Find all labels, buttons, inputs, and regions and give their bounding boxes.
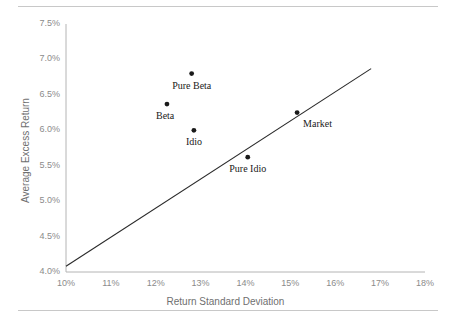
data-point-marker[interactable] (245, 155, 250, 160)
data-point-label: Beta (156, 110, 174, 121)
data-point-label: Idio (186, 136, 202, 147)
data-point-label: Pure Idio (229, 163, 266, 174)
data-point-marker[interactable] (295, 110, 300, 115)
x-tick-label: 11% (91, 278, 131, 288)
x-tick-label: 15% (270, 278, 310, 288)
x-axis-title: Return Standard Deviation (0, 296, 451, 307)
x-tick-label: 18% (405, 278, 445, 288)
data-point-label: Pure Beta (172, 80, 211, 91)
axes (66, 24, 425, 272)
y-tick-label: 6.5% (26, 89, 60, 99)
x-tick-label: 16% (315, 278, 355, 288)
y-tick-label: 4.5% (26, 231, 60, 241)
y-tick-label: 5.5% (26, 160, 60, 170)
y-tick-label: 5.0% (26, 195, 60, 205)
scatter-plot (0, 0, 451, 320)
data-point-marker[interactable] (191, 128, 196, 133)
x-tick-label: 12% (136, 278, 176, 288)
data-point-label: Market (303, 118, 332, 129)
figure-container: 4.0%4.5%5.0%5.5%6.0%6.5%7.0%7.5% 10%11%1… (0, 0, 451, 320)
trend-line-group (66, 69, 371, 267)
y-tick-label: 6.0% (26, 124, 60, 134)
y-tick-label: 7.5% (26, 18, 60, 28)
y-tick-label: 7.0% (26, 53, 60, 63)
data-point-marker[interactable] (189, 71, 194, 76)
y-tick-label: 4.0% (26, 266, 60, 276)
x-tick-label: 17% (360, 278, 400, 288)
data-point-marker[interactable] (165, 102, 170, 107)
trend-line (66, 69, 371, 267)
x-tick-label: 13% (181, 278, 221, 288)
y-axis-title: Average Excess Return (20, 71, 31, 231)
x-tick-label: 10% (46, 278, 86, 288)
x-tick-label: 14% (226, 278, 266, 288)
